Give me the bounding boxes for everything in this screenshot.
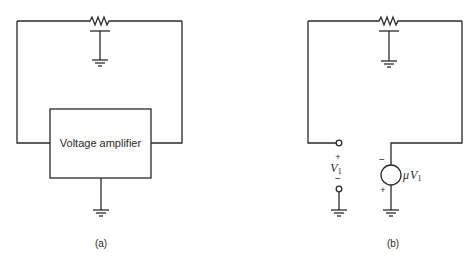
v1-minus: − [335,173,341,184]
ground-icon [93,210,109,216]
wire-right [391,21,462,165]
capacitor-icon [379,31,399,61]
terminal-bottom [336,186,342,192]
terminal-top [336,140,342,146]
caption-a: (a) [95,238,107,249]
circuit-figure: Voltage amplifier (a) + V1 − [0,0,470,258]
wire-left [17,21,50,143]
block-label: Voltage amplifier [60,137,142,149]
ground-icon [381,61,397,67]
circuit-a: Voltage amplifier (a) [17,17,182,249]
circuit-b: + V1 − − + μV1 (b) [308,17,462,249]
wire-right [151,21,182,143]
caption-b: (b) [387,238,399,249]
ground-icon [383,210,399,216]
source-minus: − [379,154,385,165]
source-plus: + [380,185,385,195]
wire-left [308,21,336,143]
mu-v1-label: μV1 [402,168,421,183]
dependent-voltage-source-icon [381,165,401,185]
ground-icon [331,210,347,216]
capacitor-icon [90,31,110,60]
ground-icon [92,60,108,66]
resistor-icon [308,17,462,25]
resistor-icon [17,17,182,25]
